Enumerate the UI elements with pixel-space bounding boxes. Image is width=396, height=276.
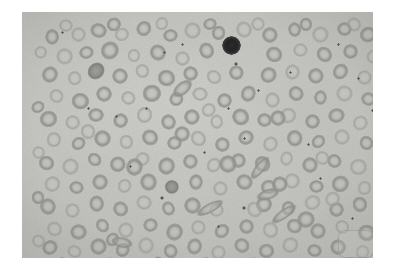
red-blood-cell [285,83,307,105]
red-blood-cell [237,217,255,235]
cell-layer [22,12,373,258]
red-blood-cell [43,218,65,240]
red-blood-cell [313,89,327,105]
red-blood-cell [93,83,114,104]
red-blood-cell [138,237,155,255]
red-blood-cell [84,59,108,83]
red-blood-cell [269,109,286,126]
red-blood-cell [292,42,308,57]
red-blood-cell [46,131,62,148]
platelet [307,143,310,146]
red-blood-cell [132,60,151,80]
red-blood-cell [60,156,80,176]
red-blood-cell [109,110,130,131]
red-blood-cell [231,235,253,256]
red-blood-cell [187,127,209,149]
red-blood-cell [134,104,153,124]
red-blood-cell [173,49,192,68]
red-blood-cell [228,64,244,80]
red-blood-cell [181,152,199,171]
red-blood-cell [111,67,129,85]
red-blood-cell [300,17,313,31]
red-blood-cell [326,106,346,124]
platelet [163,51,166,54]
red-blood-cell [348,157,367,175]
platelet [371,109,374,112]
platelet [61,31,64,34]
red-blood-cell [211,221,232,242]
red-blood-cell [88,194,104,212]
red-blood-cell [62,200,83,221]
red-blood-cell [180,18,204,42]
red-blood-cell [282,62,301,82]
red-blood-cell [364,46,373,66]
red-blood-cell [263,43,286,65]
red-blood-cell [59,19,74,33]
red-blood-cell [135,194,154,212]
red-blood-cell [67,179,84,195]
red-blood-cell [285,128,303,147]
print-artifact-rectangle [338,230,373,258]
red-blood-cell [308,131,328,151]
red-blood-cell [236,128,256,148]
red-blood-cell [33,44,48,59]
red-blood-cell [203,67,224,88]
sickle-cell [255,185,281,203]
platelet [129,165,132,168]
platelet [337,43,340,46]
red-blood-cell [359,89,373,107]
red-blood-cell [62,111,83,132]
red-blood-cell [341,42,359,60]
red-blood-cell [196,40,216,61]
red-blood-cell [118,88,138,107]
red-blood-cell [155,154,177,177]
red-blood-cell [174,126,190,142]
red-blood-cell [332,81,356,105]
red-blood-cell [40,172,64,195]
red-blood-cell [306,66,326,86]
red-blood-cell [218,154,237,173]
platelet [234,62,238,66]
red-blood-cell [117,132,134,150]
red-blood-cell [69,223,87,240]
red-blood-cell [258,243,274,258]
platelet [203,151,206,154]
white-blood-cell [222,36,241,55]
red-blood-cell [351,195,369,214]
red-blood-cell [209,243,228,258]
red-blood-cell [146,41,169,64]
red-blood-cell [77,44,95,61]
red-blood-cell [278,149,295,167]
platelet [115,115,118,118]
photo-print-frame [22,12,373,258]
red-blood-cell [305,242,323,258]
red-blood-cell [210,178,231,199]
red-blood-cell [329,60,351,83]
red-blood-cell [53,45,75,67]
red-blood-cell [259,133,280,154]
red-blood-cell [39,63,61,85]
red-blood-cell [188,173,204,190]
platelet [257,89,260,92]
red-blood-cell [302,111,322,131]
red-blood-cell [89,171,111,192]
red-blood-cell [190,219,205,235]
red-blood-cell [141,83,162,103]
red-blood-cell [349,111,371,133]
red-blood-cell [355,178,373,196]
platelet [181,43,184,46]
platelet [289,71,292,74]
red-blood-cell [114,176,133,196]
red-blood-cell [237,82,258,104]
red-blood-cell [191,86,209,102]
red-blood-cell [228,104,252,128]
red-blood-cell [151,255,165,258]
red-blood-cell [184,235,204,256]
red-blood-cell [84,149,104,169]
platelet [145,107,148,110]
red-blood-cell [263,90,281,109]
platelet [87,107,90,110]
red-blood-cell [293,256,312,258]
red-blood-cell [356,133,373,153]
red-blood-cell [160,240,180,258]
